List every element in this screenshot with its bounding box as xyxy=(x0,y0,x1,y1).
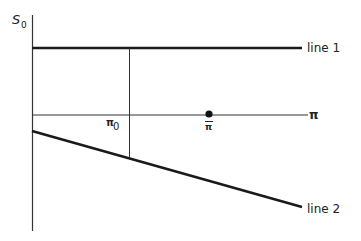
line-2-label: line 2 xyxy=(307,202,340,216)
x-axis-label: π xyxy=(309,108,319,122)
line-2 xyxy=(32,131,302,207)
pibar-point xyxy=(205,110,212,117)
y-axis-label-subscript: 0 xyxy=(21,20,27,30)
pi0-label-subscript: 0 xyxy=(113,121,119,132)
diagram: S 0 line 1 π π 0 π line 2 xyxy=(0,0,361,241)
line-1-label: line 1 xyxy=(307,41,340,55)
y-axis-label: S xyxy=(12,12,20,27)
pibar-label: π xyxy=(205,122,212,132)
